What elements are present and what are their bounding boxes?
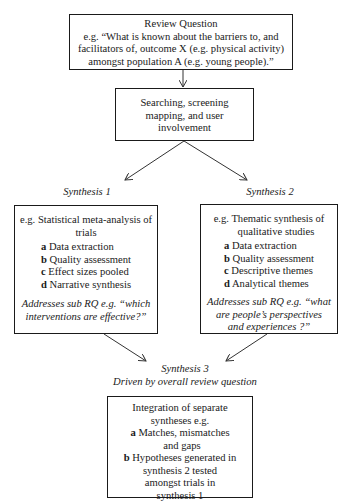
synthesis1-intro: trials bbox=[15, 227, 157, 240]
review-question-line: facilitators of, outcome X (e.g. physica… bbox=[66, 43, 296, 56]
synthesis1-sub-rq: Addresses sub RQ e.g. “which bbox=[15, 298, 157, 311]
review-question-line: amongst population A (e.g. young people)… bbox=[70, 56, 292, 69]
arrow-synthesis2-to-synthesis3 bbox=[226, 334, 267, 361]
synthesis2-sub-rq: and experiences ?” bbox=[201, 321, 337, 334]
synthesis1-step: a Data extraction bbox=[41, 241, 131, 254]
synthesis1-step: c Effect sizes pooled bbox=[41, 266, 131, 279]
review-question-box: Review Question e.g. “What is known abou… bbox=[69, 14, 293, 70]
searching-box: Searching, screening mapping, and user i… bbox=[115, 88, 254, 141]
synthesis1-step: d Narrative synthesis bbox=[41, 279, 131, 292]
synthesis2-step: b Quality assessment bbox=[224, 253, 314, 266]
synthesis2-sub-rq: are people’s perspectives bbox=[201, 309, 337, 322]
synthesis3-box: Integration of separate syntheses e.g. a… bbox=[107, 396, 253, 498]
synthesis1-step: b Quality assessment bbox=[41, 254, 131, 267]
synthesis3-label: Synthesis 3 bbox=[100, 363, 270, 376]
synthesis2-step: c Descriptive themes bbox=[224, 265, 314, 278]
arrow-synthesis1-to-synthesis3 bbox=[104, 334, 146, 361]
synthesis1-box: e.g. Statistical meta-analysis of trials… bbox=[14, 205, 158, 334]
synthesis2-step: a Data extraction bbox=[224, 240, 314, 253]
synthesis3-step-b: b Hypotheses generated in synthesis 2 te… bbox=[108, 452, 252, 502]
synthesis2-box: e.g. Thematic synthesis of qualitative s… bbox=[200, 204, 338, 334]
arrow-searching-to-synthesis1 bbox=[125, 141, 184, 180]
synthesis2-intro: qualitative studies bbox=[201, 226, 337, 239]
synthesis3-step-a: a Matches, mismatches and gaps bbox=[108, 427, 252, 452]
synthesis2-sub-rq: Addresses sub RQ e.g. “what bbox=[201, 296, 337, 309]
synthesis2-label: Synthesis 2 bbox=[223, 186, 317, 199]
synthesis3-sublabel: Driven by overall review question bbox=[80, 376, 290, 389]
searching-line: Searching, screening bbox=[116, 97, 253, 110]
synthesis3-intro: Integration of separate bbox=[108, 402, 252, 415]
synthesis2-step: d Analytical themes bbox=[224, 278, 314, 291]
review-question-title: Review Question bbox=[70, 18, 292, 31]
synthesis2-steps: a Data extraction b Quality assessment c… bbox=[224, 240, 314, 290]
synthesis1-intro: e.g. Statistical meta-analysis of bbox=[15, 214, 157, 227]
searching-line: involvement bbox=[116, 122, 253, 135]
arrow-searching-to-synthesis2 bbox=[184, 141, 247, 180]
synthesis2-intro: e.g. Thematic synthesis of bbox=[201, 213, 337, 226]
searching-line: mapping, and user bbox=[116, 110, 253, 123]
review-question-line: e.g. “What is known about the barriers t… bbox=[66, 31, 296, 44]
synthesis1-sub-rq: interventions are effective?” bbox=[15, 311, 157, 324]
synthesis3-intro: syntheses e.g. bbox=[108, 415, 252, 428]
synthesis1-label: Synthesis 1 bbox=[40, 186, 134, 199]
synthesis1-steps: a Data extraction b Quality assessment c… bbox=[41, 241, 131, 291]
